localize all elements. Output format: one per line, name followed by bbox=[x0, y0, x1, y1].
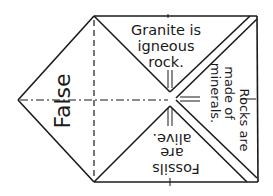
right-line-2: made of bbox=[222, 66, 237, 120]
left-panel-text: False bbox=[50, 73, 75, 128]
top-line-1: Granite is bbox=[131, 22, 201, 38]
bottom-line-2: are bbox=[160, 145, 184, 161]
right-line-3: minerals. bbox=[208, 63, 223, 123]
top-line-3: rock. bbox=[148, 54, 184, 70]
fortune-teller-diagram: False Granite is igneous rock. Rocks are… bbox=[0, 0, 273, 196]
right-line-1: Rocks are bbox=[237, 88, 252, 151]
bottom-panel-text: alive. are Fossils bbox=[152, 131, 199, 177]
false-label: False bbox=[50, 73, 75, 128]
top-line-2: igneous bbox=[138, 38, 195, 54]
bottom-line-1: Fossils bbox=[152, 161, 199, 177]
bottom-line-3: alive. bbox=[152, 131, 191, 147]
right-edge bbox=[257, 16, 258, 182]
